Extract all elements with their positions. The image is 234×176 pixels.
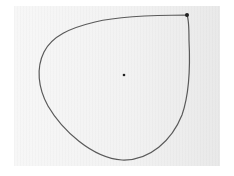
corner-mark — [185, 13, 189, 17]
teardrop-curve — [39, 15, 189, 160]
center-dot — [123, 74, 126, 77]
loop-drawing — [0, 0, 234, 176]
